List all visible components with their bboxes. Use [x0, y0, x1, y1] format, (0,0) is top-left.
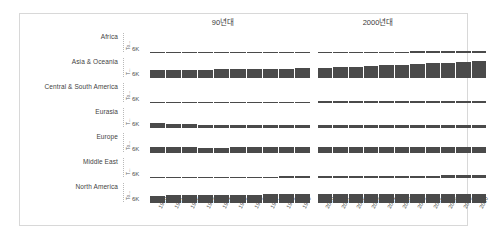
bar[interactable]: [349, 101, 363, 103]
bar[interactable]: [295, 68, 310, 78]
bar[interactable]: [263, 102, 278, 103]
bar[interactable]: [318, 52, 332, 53]
bar[interactable]: [198, 125, 213, 129]
bar[interactable]: [333, 52, 347, 53]
bar[interactable]: [379, 125, 393, 128]
bar[interactable]: [214, 102, 229, 103]
bar[interactable]: [395, 101, 409, 103]
bar[interactable]: [318, 176, 332, 178]
bar[interactable]: [279, 69, 294, 78]
bar[interactable]: [182, 177, 197, 178]
bar[interactable]: [441, 125, 455, 128]
bar[interactable]: [230, 69, 245, 78]
bar[interactable]: [456, 147, 470, 153]
bar[interactable]: [472, 101, 486, 103]
bar[interactable]: [410, 176, 424, 178]
bar[interactable]: [214, 52, 229, 53]
bar[interactable]: [410, 125, 424, 128]
bar[interactable]: [333, 176, 347, 178]
bar[interactable]: [230, 52, 245, 53]
bar[interactable]: [426, 51, 440, 53]
bar[interactable]: [247, 69, 262, 78]
bar[interactable]: [247, 147, 262, 153]
bar[interactable]: [247, 52, 262, 53]
bar[interactable]: [263, 52, 278, 53]
bar[interactable]: [166, 70, 181, 78]
bar[interactable]: [166, 52, 181, 53]
bar[interactable]: [333, 101, 347, 103]
bar[interactable]: [472, 61, 486, 78]
bar[interactable]: [441, 147, 455, 153]
bar[interactable]: [263, 69, 278, 78]
bar[interactable]: [295, 102, 310, 103]
bar[interactable]: [279, 52, 294, 53]
bar[interactable]: [279, 125, 294, 128]
bar[interactable]: [456, 175, 470, 178]
bar[interactable]: [150, 70, 165, 78]
bar[interactable]: [166, 147, 181, 153]
bar[interactable]: [395, 147, 409, 153]
bar[interactable]: [379, 147, 393, 153]
bar[interactable]: [456, 101, 470, 103]
bar[interactable]: [247, 177, 262, 178]
bar[interactable]: [182, 102, 197, 103]
bar[interactable]: [349, 176, 363, 178]
bar[interactable]: [166, 102, 181, 103]
bar[interactable]: [295, 125, 310, 128]
bar[interactable]: [166, 177, 181, 178]
bar[interactable]: [349, 52, 363, 53]
bar[interactable]: [247, 102, 262, 103]
bar[interactable]: [395, 176, 409, 178]
bar[interactable]: [318, 147, 332, 153]
bar[interactable]: [150, 52, 165, 53]
bar[interactable]: [198, 102, 213, 103]
bar[interactable]: [456, 62, 470, 78]
bar[interactable]: [247, 125, 262, 128]
bar[interactable]: [364, 52, 378, 53]
bar[interactable]: [426, 147, 440, 153]
bar[interactable]: [333, 147, 347, 153]
bar[interactable]: [379, 52, 393, 53]
bar[interactable]: [230, 147, 245, 153]
bar[interactable]: [214, 148, 229, 153]
bar[interactable]: [349, 67, 363, 78]
bar[interactable]: [214, 177, 229, 178]
bar[interactable]: [441, 175, 455, 178]
bar[interactable]: [456, 51, 470, 53]
bar[interactable]: [198, 177, 213, 178]
bar[interactable]: [364, 147, 378, 153]
bar[interactable]: [333, 125, 347, 128]
bar[interactable]: [410, 51, 424, 53]
bar[interactable]: [395, 52, 409, 53]
bar[interactable]: [214, 125, 229, 128]
bar[interactable]: [150, 102, 165, 103]
bar[interactable]: [150, 177, 165, 178]
bar[interactable]: [472, 125, 486, 128]
bar[interactable]: [318, 68, 332, 78]
bar[interactable]: [182, 70, 197, 78]
bar[interactable]: [379, 176, 393, 178]
bar[interactable]: [364, 125, 378, 128]
bar[interactable]: [198, 148, 213, 153]
bar[interactable]: [263, 125, 278, 128]
bar[interactable]: [410, 101, 424, 103]
bar[interactable]: [426, 101, 440, 103]
bar[interactable]: [395, 65, 409, 78]
bar[interactable]: [182, 52, 197, 53]
bar[interactable]: [441, 63, 455, 78]
bar[interactable]: [441, 101, 455, 103]
bar[interactable]: [456, 125, 470, 128]
bar[interactable]: [349, 147, 363, 153]
bar[interactable]: [364, 101, 378, 103]
bar[interactable]: [230, 102, 245, 103]
bar[interactable]: [150, 147, 165, 153]
bar[interactable]: [295, 176, 310, 178]
bar[interactable]: [333, 67, 347, 78]
bar[interactable]: [410, 64, 424, 78]
bar[interactable]: [364, 176, 378, 178]
bar[interactable]: [150, 123, 165, 128]
bar[interactable]: [472, 51, 486, 53]
bar[interactable]: [263, 177, 278, 179]
bar[interactable]: [318, 101, 332, 103]
bar[interactable]: [166, 124, 181, 128]
